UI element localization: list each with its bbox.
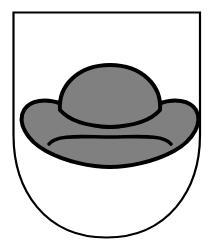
coat-of-arms-image bbox=[0, 0, 210, 252]
hat-crown bbox=[60, 65, 160, 127]
coat-of-arms-canvas: Coat of arms with a hat Argent (white) H… bbox=[0, 0, 210, 252]
